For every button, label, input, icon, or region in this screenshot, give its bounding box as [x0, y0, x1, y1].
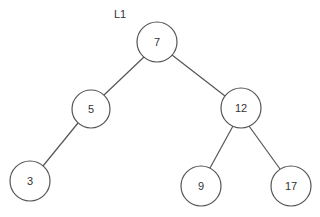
node-3-value: 3 — [27, 175, 33, 187]
node-17-value: 17 — [285, 180, 297, 192]
node-9: 9 — [181, 166, 221, 206]
edge-12-9 — [210, 126, 233, 168]
edge-5-3 — [43, 123, 78, 166]
node-17: 17 — [271, 166, 311, 206]
node-12-value: 12 — [235, 102, 247, 114]
edge-7-5 — [104, 57, 144, 95]
node-5-value: 5 — [88, 103, 94, 115]
edge-12-17 — [249, 126, 280, 169]
node-7-value: 7 — [154, 36, 160, 48]
node-7: 7 — [137, 22, 177, 62]
node-9-value: 9 — [198, 180, 204, 192]
node-12: 12 — [221, 88, 261, 128]
tree-diagram: 7 5 12 3 9 17 — [0, 0, 320, 217]
node-3: 3 — [10, 161, 50, 201]
node-5: 5 — [72, 90, 110, 128]
edge-7-12 — [172, 55, 225, 96]
